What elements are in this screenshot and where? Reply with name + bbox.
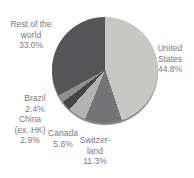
pie-chart bbox=[52, 17, 158, 123]
label-rest-of-the-world: Rest of the world 33.0% bbox=[3, 19, 59, 51]
label-united-states: United States 44.8% bbox=[148, 43, 192, 75]
label-switzerland: Switzer- land 11.3% bbox=[75, 135, 115, 167]
pie-chart-figure: Rest of the world 33.0% United States 44… bbox=[0, 0, 194, 178]
label-brazil: Brazil 2.4% bbox=[15, 93, 55, 114]
